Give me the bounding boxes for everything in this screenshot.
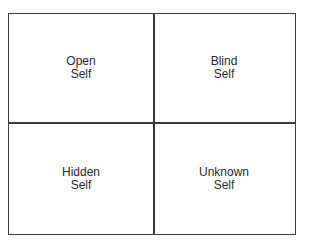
quadrant-open-self: Open Self: [9, 14, 153, 122]
quadrant-hidden-self: Hidden Self: [9, 124, 153, 234]
quadrant-label-line2: Self: [71, 68, 92, 81]
quadrant-label-line2: Self: [214, 179, 235, 192]
quadrant-blind-self: Blind Self: [154, 14, 294, 122]
johari-window-grid: Open Self Blind Self Hidden Self Unknown…: [8, 13, 296, 235]
quadrant-label-line2: Self: [71, 179, 92, 192]
quadrant-label-line2: Self: [214, 68, 235, 81]
quadrant-unknown-self: Unknown Self: [154, 124, 294, 234]
